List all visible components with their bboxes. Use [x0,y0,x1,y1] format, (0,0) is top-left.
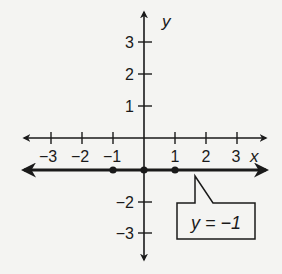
x-axis-label: x [249,147,259,166]
point-marker [109,166,116,173]
y-tick-label: −3 [116,225,134,242]
y-tick-label: 1 [125,98,134,115]
y-tick-label: −2 [116,194,134,211]
y-tick-label: 2 [125,66,134,83]
point-marker [171,166,178,173]
y-tick-label: 3 [125,34,134,51]
coordinate-plane: −3 −2 −1 1 2 3 3 2 1 −2 −3 y x y = −1 [0,0,282,274]
callout-label: y = −1 [189,213,241,233]
y-axis-label: y [161,12,172,31]
x-tick-label: −3 [39,148,57,165]
x-tick-label: 2 [202,148,211,165]
x-tick-label: −2 [71,148,89,165]
x-tick-label: 1 [171,148,180,165]
x-tick-label: −1 [103,148,121,165]
x-tick-label: 3 [232,148,241,165]
point-marker [140,166,147,173]
